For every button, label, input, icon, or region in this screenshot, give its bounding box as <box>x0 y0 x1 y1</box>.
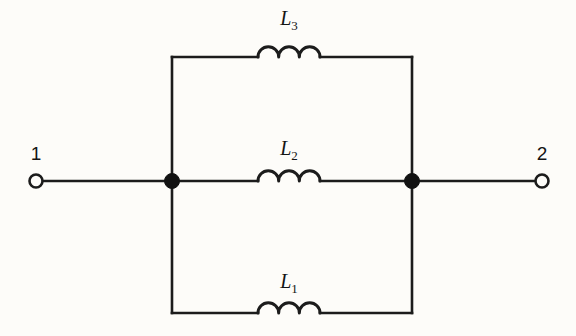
terminal-1-ring <box>30 175 43 188</box>
junction-node-right <box>405 174 420 189</box>
inductor-l2-label-subscript: 2 <box>291 148 298 163</box>
terminal-2-label: 2 <box>537 143 548 164</box>
inductor-l2-label-name: L <box>279 137 291 159</box>
schematic-canvas: L3 L2 L1 1 2 <box>0 0 576 336</box>
inductor-l1-coil <box>258 303 320 313</box>
terminal-1-label: 1 <box>31 143 42 164</box>
inductor-l3-label-name: L <box>279 7 291 29</box>
circuit-diagram: L3 L2 L1 1 2 <box>0 0 576 336</box>
inductor-l2-label: L2 <box>279 137 298 163</box>
inductor-l1-label: L1 <box>279 270 298 296</box>
inductor-l3-label-subscript: 3 <box>291 18 298 33</box>
junction-node-left <box>165 174 180 189</box>
inductor-l2-coil <box>258 171 320 181</box>
inductor-l3-label: L3 <box>279 7 298 33</box>
inductor-l3-coil <box>258 47 320 57</box>
terminal-2-ring <box>536 175 549 188</box>
inductor-l1-label-subscript: 1 <box>291 281 298 296</box>
inductor-l1-label-name: L <box>279 270 291 292</box>
